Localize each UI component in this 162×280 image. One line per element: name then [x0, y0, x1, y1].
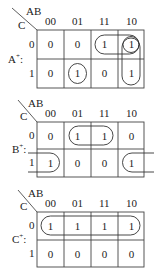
- kmap-cell: 0: [91, 149, 118, 177]
- kmap-cell: 1: [64, 59, 91, 87]
- kmap-cell: 0: [91, 240, 118, 267]
- row-header: 0: [29, 220, 35, 231]
- function-label: A+:: [8, 52, 23, 65]
- kmap-cell: 0: [118, 122, 145, 149]
- function-label: B+:: [12, 142, 26, 155]
- row-header: 0: [29, 39, 35, 50]
- kmap-cell: 0: [91, 59, 118, 87]
- kmap-b-plus: AB C 00 01 11 10 0 1 B+: 0 1 1 0 1 0 0 1: [0, 94, 162, 186]
- col-header: 11: [99, 198, 110, 209]
- kmap-cell: 1: [91, 122, 118, 149]
- col-header: 01: [72, 16, 83, 27]
- col-header: 11: [99, 108, 110, 119]
- kmap-cell: 1: [118, 149, 145, 177]
- col-header: 00: [45, 108, 56, 119]
- row-header: 1: [29, 68, 35, 79]
- kmap-c-plus: AB C 00 01 11 10 0 1 C+: 1 1 1 1 0 0 0 0: [0, 184, 162, 276]
- function-label: C+:: [12, 232, 26, 245]
- col-header: 01: [72, 108, 83, 119]
- kmap-cell: 0: [64, 240, 91, 267]
- kmap-cell: 1: [37, 212, 64, 240]
- col-header: 10: [126, 16, 137, 27]
- kmap-cell: 0: [64, 149, 91, 177]
- kmap-cell: 0: [37, 59, 64, 87]
- kmap-cell: 0: [37, 30, 64, 58]
- col-var-label: AB: [26, 6, 41, 17]
- kmap-cell: 1: [64, 122, 91, 149]
- col-header: 10: [126, 108, 137, 119]
- col-header: 10: [126, 198, 137, 209]
- col-header: 00: [45, 16, 56, 27]
- row-header: 1: [29, 248, 35, 259]
- kmap-a-plus: AB C 00 01 11 10 0 1 A+: 0 0 1 1 0 1 0 1: [0, 0, 162, 92]
- kmap-cell: 0: [37, 240, 64, 267]
- row-var-label: C: [20, 111, 27, 122]
- col-header: 11: [99, 16, 110, 27]
- kmap-cell: 1: [37, 149, 64, 177]
- kmap-cell: 0: [64, 30, 91, 58]
- row-var-label: C: [18, 20, 25, 31]
- kmap-cell: 0: [118, 240, 145, 267]
- kmap-cell: 1: [118, 30, 145, 58]
- kmap-cell: 1: [91, 212, 118, 240]
- col-header: 00: [45, 198, 56, 209]
- kmap-cell: 1: [91, 30, 118, 58]
- row-header: 0: [29, 130, 35, 141]
- col-var-label: AB: [28, 98, 43, 109]
- col-header: 01: [72, 198, 83, 209]
- row-var-label: C: [20, 201, 27, 212]
- col-var-label: AB: [28, 188, 43, 199]
- kmap-cell: 1: [118, 59, 145, 87]
- kmap-cell: 0: [37, 122, 64, 149]
- kmap-cell: 1: [118, 212, 145, 240]
- row-header: 1: [29, 157, 35, 168]
- kmap-cell: 1: [64, 212, 91, 240]
